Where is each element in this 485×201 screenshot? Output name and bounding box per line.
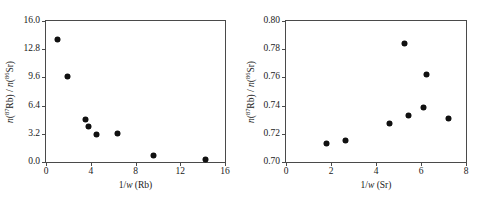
y-tick-label-left-2: 6.4 xyxy=(28,101,40,111)
data-point xyxy=(115,131,120,136)
data-point xyxy=(324,141,329,146)
y-axis-title-left-sup2: 86 xyxy=(3,72,10,78)
y-axis-title-left-slash: / xyxy=(5,86,15,93)
x-tick-label-left-3: 12 xyxy=(176,167,186,177)
data-point xyxy=(406,113,411,118)
y-tick-right-1 xyxy=(282,134,286,135)
chart-panel-right: 0.700.720.740.760.780.8002468 1/w (Sr) n… xyxy=(242,0,485,201)
data-point xyxy=(83,117,88,122)
y-axis-title-left-n2: n xyxy=(5,82,15,87)
y-axis-title-left-n1: n xyxy=(5,118,15,123)
data-point xyxy=(151,153,156,158)
y-tick-label-right-3: 0.76 xyxy=(263,73,280,83)
plot-area-right: 0.700.720.740.760.780.8002468 xyxy=(286,21,466,162)
y-tick-left-4 xyxy=(42,49,46,50)
y-tick-label-right-0: 0.70 xyxy=(263,157,280,167)
y-axis-title-right-n1: n xyxy=(246,118,256,123)
x-tick-label-right-2: 4 xyxy=(374,167,379,177)
x-tick-label-left-1: 4 xyxy=(88,167,93,177)
y-axis-title-right: n(87Rb) / n(86Sr) xyxy=(245,60,257,122)
data-point xyxy=(86,124,91,129)
y-axis-title-left-close2: ) xyxy=(5,60,15,63)
x-axis-title-right-suffix: (Sr) xyxy=(374,180,391,190)
y-tick-left-5 xyxy=(42,21,46,22)
x-tick-label-left-2: 8 xyxy=(133,167,138,177)
y-axis-title-left-el1: Rb xyxy=(5,97,15,108)
x-axis-title-left: 1/w (Rb) xyxy=(119,181,153,191)
y-axis-title-right-slash: / xyxy=(246,86,256,93)
y-tick-right-4 xyxy=(282,49,286,50)
plot-frame-left: 0.03.26.49.612.816.00481216 xyxy=(45,20,226,163)
plot-area-left: 0.03.26.49.612.816.00481216 xyxy=(46,21,225,162)
x-tick-label-left-0: 0 xyxy=(44,167,49,177)
chart-panel-left: 0.03.26.49.612.816.00481216 1/w (Rb) n(8… xyxy=(0,0,243,201)
data-point xyxy=(65,74,70,79)
data-point xyxy=(446,116,451,121)
y-tick-label-left-3: 9.6 xyxy=(28,73,40,83)
y-tick-right-3 xyxy=(282,77,286,78)
y-tick-right-5 xyxy=(282,21,286,22)
data-point xyxy=(387,121,392,126)
y-axis-title-right-n2: n xyxy=(246,82,256,87)
y-tick-label-right-1: 0.72 xyxy=(263,129,280,139)
plot-frame-right: 0.700.720.740.760.780.8002468 xyxy=(285,20,467,163)
y-tick-label-left-0: 0.0 xyxy=(28,157,40,167)
data-point xyxy=(55,37,60,42)
data-point xyxy=(343,138,348,143)
x-tick-label-left-4: 16 xyxy=(220,167,230,177)
data-point xyxy=(203,157,208,162)
data-point xyxy=(402,41,407,46)
y-axis-title-right-sup1: 87 xyxy=(244,108,251,114)
y-axis-title-left: n(87Rb) / n(86Sr) xyxy=(4,60,16,122)
x-tick-label-right-3: 6 xyxy=(419,167,424,177)
y-tick-label-right-4: 0.78 xyxy=(263,44,280,54)
x-axis-title-left-suffix: (Rb) xyxy=(132,180,152,190)
x-tick-label-right-4: 8 xyxy=(464,167,469,177)
y-tick-right-2 xyxy=(282,106,286,107)
y-tick-left-2 xyxy=(42,106,46,107)
y-tick-label-left-5: 16.0 xyxy=(23,16,40,26)
data-point xyxy=(421,105,426,110)
y-tick-label-right-5: 0.80 xyxy=(263,16,280,26)
y-tick-label-right-2: 0.74 xyxy=(263,101,280,111)
y-tick-label-left-1: 3.2 xyxy=(28,129,40,139)
x-tick-label-right-0: 0 xyxy=(284,167,289,177)
data-point xyxy=(424,72,429,77)
figure-container: 0.03.26.49.612.816.00481216 1/w (Rb) n(8… xyxy=(0,0,485,201)
y-tick-left-1 xyxy=(42,134,46,135)
y-axis-title-right-close2: ) xyxy=(246,60,256,63)
y-tick-left-3 xyxy=(42,77,46,78)
y-tick-label-left-4: 12.8 xyxy=(23,44,40,54)
x-tick-label-right-1: 2 xyxy=(329,167,334,177)
y-axis-title-right-el2: Sr xyxy=(246,64,256,72)
y-axis-title-left-sup1: 87 xyxy=(3,108,10,114)
y-axis-title-left-el2: Sr xyxy=(5,64,15,72)
y-axis-title-right-el1: Rb xyxy=(246,97,256,108)
y-axis-title-right-sup2: 86 xyxy=(244,72,251,78)
data-point xyxy=(94,132,99,137)
x-axis-title-right: 1/w (Sr) xyxy=(361,181,392,191)
